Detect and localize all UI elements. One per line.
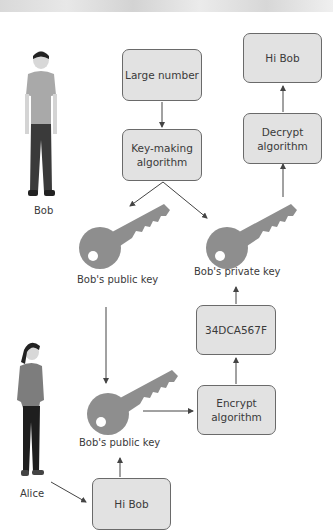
- alice-label: Alice: [20, 488, 44, 499]
- bob-figure: [22, 50, 62, 200]
- decrypt-algorithm-box: Decrypt algorithm: [243, 113, 322, 164]
- bob-label: Bob: [34, 205, 53, 216]
- encrypt-algorithm-box: Encrypt algorithm: [197, 385, 276, 435]
- large-number-box: Large number: [122, 49, 202, 101]
- ciphertext-box: 34DCA567F: [196, 305, 276, 355]
- public-key-icon: [78, 200, 178, 275]
- alice-figure: [12, 340, 52, 480]
- key-making-algorithm-box: Key-making algorithm: [122, 129, 202, 181]
- hi-bob-decrypted-box: Hi Bob: [243, 33, 322, 83]
- hi-bob-plaintext-box: Hi Bob: [92, 478, 171, 530]
- public-key-label-bottom: Bob's public key: [79, 437, 160, 448]
- public-key-label-top: Bob's public key: [77, 274, 158, 285]
- private-key-icon: [205, 200, 305, 275]
- public-key-icon-bottom: [86, 366, 186, 441]
- private-key-label: Bob's private key: [194, 266, 281, 277]
